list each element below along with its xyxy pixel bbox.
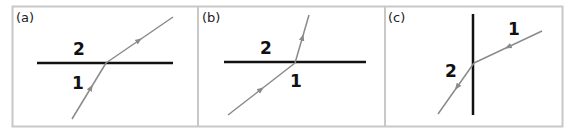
panel-label: (b) bbox=[202, 10, 220, 25]
refraction-figure: (a) 2 1 (b) 2 1 (c bbox=[0, 0, 574, 133]
figure-frame bbox=[13, 6, 563, 127]
medium-label-1: 1 bbox=[508, 19, 520, 39]
panel-label: (a) bbox=[16, 10, 34, 25]
panel-label: (c) bbox=[388, 10, 405, 25]
medium-label-1: 1 bbox=[72, 73, 84, 93]
medium-label-2: 2 bbox=[445, 61, 457, 81]
medium-label-2: 2 bbox=[73, 39, 85, 59]
medium-label-1: 1 bbox=[290, 71, 302, 91]
medium-label-2: 2 bbox=[260, 38, 272, 58]
